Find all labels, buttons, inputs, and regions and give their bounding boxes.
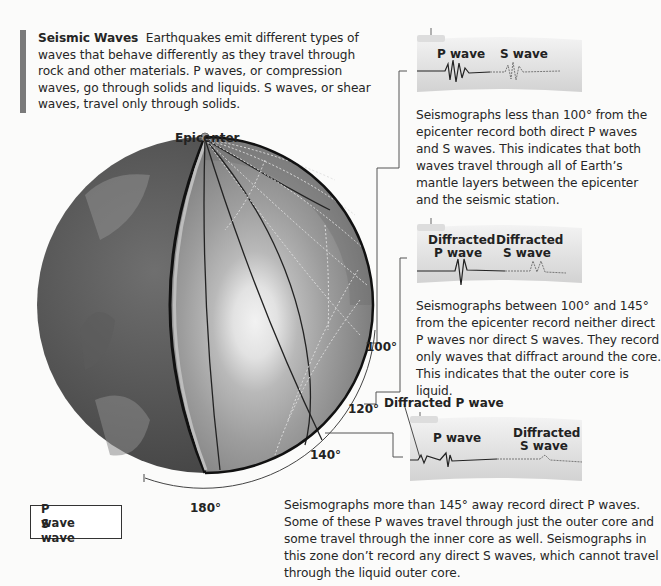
legend: P wave S wave bbox=[30, 505, 122, 539]
angle-label-180: 180° bbox=[190, 501, 221, 515]
angle-label-100: 100° bbox=[366, 340, 397, 354]
seismograph-1-label-p: P wave bbox=[437, 48, 485, 61]
legend-label-s-wave: S wave bbox=[41, 517, 86, 545]
seismograph-2-label-s: Diffracted S wave bbox=[496, 234, 558, 260]
seismograph-3-description: Seismographs more than 145° away record … bbox=[284, 497, 661, 582]
angle-label-140: 140° bbox=[310, 448, 341, 462]
seismograph-2-label-p: Diffracted P wave bbox=[428, 234, 488, 260]
seismograph-3-label-s: Diffracted S wave bbox=[513, 427, 575, 453]
seismograph-1-description: Seismographs less than 100° from the epi… bbox=[416, 107, 661, 209]
angle-label-120: 120° bbox=[348, 402, 379, 416]
seismograph-1-label-s: S wave bbox=[500, 48, 548, 61]
epicenter-label: Epicenter bbox=[175, 131, 240, 145]
seismograph-3-label-p: P wave bbox=[433, 432, 481, 445]
seismograph-3-callout: Diffracted P wave bbox=[384, 396, 504, 410]
seismograph-2-description: Seismographs between 100° and 145° from … bbox=[416, 298, 661, 400]
legend-item-s-wave: S wave bbox=[41, 523, 121, 538]
earth-globe bbox=[37, 133, 373, 473]
